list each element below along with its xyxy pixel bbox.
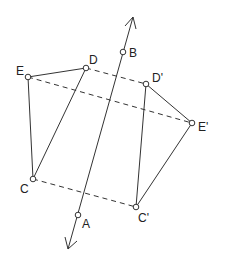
reflection-diagram: B A E D C D' E' C'	[0, 0, 225, 264]
label-c: C	[20, 182, 29, 196]
triangle-cprime-dprime-eprime	[136, 84, 192, 207]
point-e-prime	[189, 120, 195, 126]
label-b: B	[129, 46, 137, 60]
label-d-prime: D'	[152, 71, 163, 85]
connector-c-cprime	[33, 179, 136, 207]
point-d	[83, 65, 89, 71]
label-a: A	[82, 217, 90, 231]
label-e-prime: E'	[198, 120, 208, 134]
point-a	[75, 212, 81, 218]
point-b	[120, 49, 126, 55]
point-c-prime	[133, 204, 139, 210]
connector-d-dprime	[86, 68, 146, 84]
point-c	[30, 176, 36, 182]
label-e: E	[16, 64, 24, 78]
connector-e-eprime	[28, 77, 192, 123]
point-e	[25, 74, 31, 80]
point-d-prime	[143, 81, 149, 87]
label-d: D	[89, 53, 98, 67]
label-c-prime: C'	[138, 211, 149, 225]
